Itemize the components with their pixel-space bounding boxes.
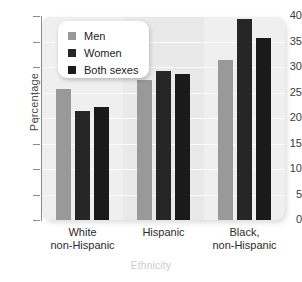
bar-both-sexes-1[interactable] — [175, 74, 190, 220]
x-category-line: non-Hispanic — [42, 239, 123, 252]
x-category-label: Hispanic — [123, 226, 204, 239]
bar-women-0[interactable] — [75, 111, 90, 220]
y-tick — [33, 195, 40, 196]
legend-swatch-icon — [68, 32, 76, 40]
x-category-line: Black, — [204, 226, 285, 239]
legend-label: Women — [84, 48, 122, 59]
legend-swatch-icon — [68, 49, 76, 57]
bar-women-1[interactable] — [156, 71, 171, 220]
y-tick — [33, 16, 40, 17]
legend-item-both-sexes[interactable]: Both sexes — [68, 62, 138, 78]
y-tick — [33, 169, 40, 170]
y-tick-label: 15 — [264, 138, 302, 149]
gridline — [42, 16, 285, 17]
bar-both-sexes-0[interactable] — [94, 107, 109, 220]
legend-item-men[interactable]: Men — [68, 28, 105, 44]
y-tick-label: 0 — [264, 214, 302, 225]
y-tick-label: 10 — [264, 163, 302, 174]
x-category-line: Hispanic — [123, 226, 204, 239]
x-axis-title: Ethnicity — [0, 260, 302, 271]
y-tick-label: 35 — [264, 36, 302, 47]
legend-label: Men — [84, 31, 105, 42]
y-tick-label: 25 — [264, 87, 302, 98]
bar-chart: 0510152025303540 Percentage Whitenon-His… — [0, 0, 302, 282]
y-tick-label: 5 — [264, 189, 302, 200]
x-category-line: White — [42, 226, 123, 239]
x-category-line: non-Hispanic — [204, 239, 285, 252]
legend[interactable]: MenWomenBoth sexes — [58, 21, 149, 78]
x-category-label: Black,non-Hispanic — [204, 226, 285, 252]
bar-men-2[interactable] — [218, 60, 233, 220]
legend-item-women[interactable]: Women — [68, 45, 122, 61]
y-tick-label: 40 — [264, 10, 302, 21]
bar-men-1[interactable] — [137, 80, 152, 220]
bar-men-0[interactable] — [56, 89, 71, 220]
bar-women-2[interactable] — [237, 19, 252, 220]
y-tick-label: 20 — [264, 112, 302, 123]
y-tick — [33, 220, 40, 221]
legend-swatch-icon — [68, 66, 76, 74]
y-axis-title: Percentage — [28, 42, 40, 162]
y-tick-label: 30 — [264, 61, 302, 72]
legend-label: Both sexes — [84, 65, 138, 76]
x-category-label: Whitenon-Hispanic — [42, 226, 123, 252]
y-axis-line — [41, 16, 42, 221]
